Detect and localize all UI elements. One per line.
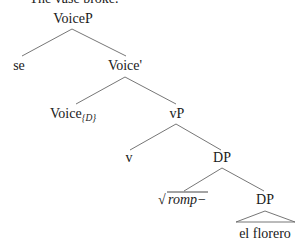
root-label: romp− — [168, 192, 207, 207]
node-v: v — [126, 150, 133, 165]
node-dp-upper: DP — [213, 150, 231, 165]
voice-head-label: Voice — [50, 106, 82, 121]
node-voice-head: Voice{D} — [50, 106, 96, 123]
node-terminal-el-florero: el florero — [239, 226, 291, 241]
edge-dp-root — [184, 168, 222, 191]
caption: The vase broke. — [29, 0, 118, 6]
node-vp: vP — [170, 106, 185, 121]
node-dp-lower: DP — [256, 192, 274, 207]
edge-voicebar-vp — [125, 77, 176, 104]
edge-vp-dp — [176, 124, 221, 150]
syntax-tree: The vase broke. VoiceP se Voice' Voice{D… — [0, 0, 308, 246]
triangle-roof — [236, 211, 295, 222]
node-root-romp: √ romp− — [158, 192, 208, 207]
edge-vp-v — [130, 124, 176, 150]
radical-sign: √ — [158, 192, 166, 207]
edge-voicebar-voicehead — [76, 77, 125, 104]
node-voice-bar: Voice' — [108, 58, 142, 73]
node-voicep: VoiceP — [53, 11, 93, 26]
edge-dp-dp — [222, 168, 264, 191]
voice-head-subscript: {D} — [82, 113, 97, 123]
edge-voicep-voicebar — [72, 29, 126, 56]
node-se: se — [13, 58, 25, 73]
edge-voicep-se — [22, 29, 72, 56]
